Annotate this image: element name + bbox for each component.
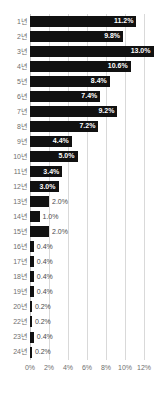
bar-value-label: 5.0%: [59, 152, 75, 160]
bar-row: 7년9.2%: [30, 104, 144, 119]
bar: 4.4%: [30, 136, 72, 147]
category-label: 15년: [13, 228, 27, 236]
x-axis-tick-label: 8%: [101, 364, 111, 372]
bar: 0.4%: [30, 332, 34, 343]
bar: 2.0%: [30, 196, 49, 207]
bar-row: 4년10.6%: [30, 59, 144, 74]
x-axis-tick-label: 12%: [137, 364, 151, 372]
bar-value-label: 0.2%: [35, 303, 51, 311]
category-label: 17년: [13, 258, 27, 266]
bar-row: 2년9.8%: [30, 29, 144, 44]
bar: 2.0%: [30, 226, 49, 237]
bar: 7.4%: [30, 91, 100, 102]
bar-row: 14년1.0%: [30, 210, 144, 225]
bar: 0.2%: [30, 347, 32, 358]
bar: 9.8%: [30, 31, 123, 42]
category-label: 1년: [17, 18, 27, 26]
category-label: 14년: [13, 213, 27, 221]
plot-area: 1년11.2%2년9.8%3년13.0%4년10.6%5년8.4%6년7.4%7…: [30, 14, 144, 360]
bar-value-label: 11.2%: [114, 17, 133, 25]
bar-value-label: 2.0%: [52, 228, 68, 236]
bar-row: 11년3.4%: [30, 164, 144, 179]
bar-value-label: 13.0%: [131, 47, 151, 55]
bar-rows: 1년11.2%2년9.8%3년13.0%4년10.6%5년8.4%6년7.4%7…: [30, 14, 144, 360]
bar-value-label: 7.4%: [81, 92, 97, 100]
x-axis: 0%2%4%6%8%10%12%: [30, 362, 144, 376]
bar-row: 24년0.2%: [30, 345, 144, 360]
bar: 0.2%: [30, 316, 32, 327]
bar-row: 19년0.4%: [30, 285, 144, 300]
category-label: 10년: [13, 153, 27, 161]
x-axis-tick-label: 2%: [44, 364, 54, 372]
category-label: 4년: [17, 63, 27, 71]
horizontal-bar-chart: 1년11.2%2년9.8%3년13.0%4년10.6%5년8.4%6년7.4%7…: [0, 0, 168, 394]
bar-row: 12년3.0%: [30, 179, 144, 194]
bar-row: 5년8.4%: [30, 74, 144, 89]
bar-value-label: 10.6%: [108, 62, 128, 70]
bar: 5.0%: [30, 151, 78, 162]
x-axis-tick-label: 0%: [25, 364, 35, 372]
bar-row: 15년2.0%: [30, 225, 144, 240]
category-label: 9년: [17, 138, 27, 146]
bar-value-label: 0.4%: [37, 243, 53, 251]
bar-row: 17년0.4%: [30, 255, 144, 270]
bar-value-label: 0.4%: [37, 273, 53, 281]
bar-row: 13년2.0%: [30, 195, 144, 210]
category-label: 2년: [17, 33, 27, 41]
bar-row: 22년0.2%: [30, 315, 144, 330]
bar-row: 6년7.4%: [30, 89, 144, 104]
bar-value-label: 3.4%: [43, 168, 59, 176]
category-label: 24년: [13, 348, 27, 356]
bar-value-label: 0.4%: [37, 333, 53, 341]
category-label: 11년: [14, 168, 27, 176]
bar-row: 3년13.0%: [30, 44, 144, 59]
bar-value-label: 8.4%: [91, 77, 107, 85]
bar-value-label: 7.2%: [79, 122, 95, 130]
x-axis-tick-label: 10%: [118, 364, 132, 372]
bar-value-label: 2.0%: [52, 198, 68, 206]
bar: 9.2%: [30, 106, 117, 117]
bar: 0.2%: [30, 301, 32, 312]
x-axis-tick-label: 4%: [63, 364, 73, 372]
category-label: 6년: [17, 93, 27, 101]
bar-value-label: 3.0%: [40, 183, 56, 191]
category-label: 20년: [13, 303, 27, 311]
bar-value-label: 0.2%: [35, 318, 51, 326]
category-label: 3년: [17, 48, 27, 56]
category-label: 5년: [17, 78, 27, 86]
category-label: 8년: [17, 123, 27, 131]
category-label: 7년: [17, 108, 27, 116]
bar: 10.6%: [30, 61, 131, 72]
bar: 7.2%: [30, 121, 98, 132]
bar: 0.4%: [30, 271, 34, 282]
bar-value-label: 0.4%: [37, 258, 53, 266]
category-label: 13년: [13, 198, 27, 206]
bar-row: 1년11.2%: [30, 14, 144, 29]
bar-row: 10년5.0%: [30, 149, 144, 164]
bar: 8.4%: [30, 76, 110, 87]
gridline: [144, 14, 145, 360]
bar-row: 8년7.2%: [30, 119, 144, 134]
category-label: 18년: [13, 273, 27, 281]
bar: 11.2%: [30, 16, 136, 27]
bar-value-label: 0.4%: [37, 288, 53, 296]
bar: 13.0%: [30, 46, 154, 57]
bar-row: 20년0.2%: [30, 300, 144, 315]
bar-value-label: 9.2%: [98, 107, 114, 115]
bar-row: 16년0.4%: [30, 240, 144, 255]
bar: 0.4%: [30, 286, 34, 297]
bar: 3.0%: [30, 181, 59, 192]
category-label: 16년: [13, 243, 27, 251]
bar-value-label: 0.2%: [35, 348, 51, 356]
bar-row: 23년0.4%: [30, 330, 144, 345]
bar: 0.4%: [30, 256, 34, 267]
bar: 3.4%: [30, 166, 62, 177]
category-label: 19년: [13, 288, 27, 296]
category-label: 23년: [13, 333, 27, 341]
bar-value-label: 9.8%: [104, 32, 120, 40]
category-label: 22년: [13, 318, 27, 326]
category-label: 12년: [13, 183, 27, 191]
bar-value-label: 4.4%: [53, 137, 69, 145]
bar-value-label: 1.0%: [43, 213, 59, 221]
bar: 1.0%: [30, 211, 40, 222]
